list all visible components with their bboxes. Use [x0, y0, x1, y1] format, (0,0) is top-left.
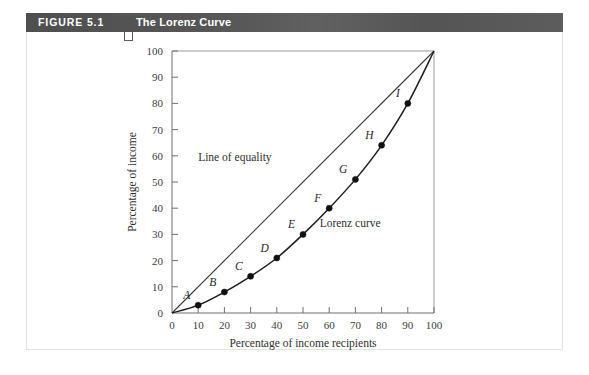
figure-root: FIGURE 5.1 The Lorenz Curve 010203040506…: [0, 0, 589, 375]
x-axis-tick-label: 0: [169, 319, 175, 331]
data-point[interactable]: [248, 273, 254, 279]
data-point-label: A: [182, 289, 191, 301]
y-axis-tick-label: 50: [152, 176, 164, 188]
data-point-label: H: [364, 129, 374, 141]
data-point-label: G: [339, 163, 348, 175]
y-axis-tick-label: 40: [152, 202, 164, 214]
data-point-label: C: [235, 260, 243, 272]
y-axis-title: Percentage of income: [126, 132, 139, 232]
data-point-label: D: [259, 242, 269, 254]
x-axis-tick-label: 40: [271, 319, 283, 331]
data-point[interactable]: [274, 255, 280, 261]
x-axis-tick-label: 10: [193, 319, 205, 331]
y-axis-tick-label: 20: [152, 255, 164, 267]
x-axis-tick-label: 90: [402, 319, 414, 331]
chart-annotation: Lorenz curve: [320, 217, 381, 229]
data-point-label: B: [209, 276, 216, 288]
x-axis-tick-label: 80: [376, 319, 388, 331]
line-of-equality: [172, 51, 434, 313]
data-point[interactable]: [221, 289, 227, 295]
y-axis-tick-label: 60: [152, 150, 164, 162]
x-axis-tick-label: 20: [219, 319, 231, 331]
data-point-label: F: [313, 192, 322, 204]
x-axis-title: Percentage of income recipients: [229, 337, 377, 350]
y-axis-tick-label: 80: [152, 97, 164, 109]
data-point[interactable]: [300, 231, 306, 237]
data-point[interactable]: [326, 205, 332, 211]
x-axis-tick-label: 50: [298, 319, 310, 331]
y-axis-tick-label: 70: [152, 124, 164, 136]
data-point-label: I: [395, 87, 401, 99]
data-point[interactable]: [352, 176, 358, 182]
y-axis-tick-label: 10: [152, 281, 164, 293]
x-axis-tick-label: 70: [350, 319, 362, 331]
chart-annotation: Line of equality: [198, 151, 272, 164]
lorenz-curve-chart: 0102030405060708090100010203040506070809…: [26, 13, 563, 350]
plot-area: 0102030405060708090100010203040506070809…: [26, 13, 563, 350]
data-point[interactable]: [379, 142, 385, 148]
y-axis-tick-label: 0: [158, 307, 164, 319]
x-axis-tick-label: 100: [426, 319, 443, 331]
x-axis-tick-label: 30: [245, 319, 257, 331]
y-axis-tick-label: 90: [152, 71, 164, 83]
data-point[interactable]: [405, 100, 411, 106]
x-axis-tick-label: 60: [324, 319, 336, 331]
data-point-label: E: [287, 218, 295, 230]
y-axis-tick-label: 30: [152, 228, 164, 240]
y-axis-tick-label: 100: [147, 45, 164, 57]
data-point[interactable]: [195, 302, 201, 308]
